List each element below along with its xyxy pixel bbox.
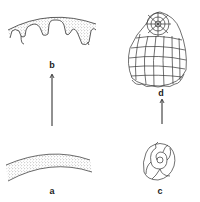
arrow-c-to-d: [160, 99, 164, 124]
panel-label-c: c: [157, 187, 162, 196]
figure: b a d c: [0, 0, 200, 202]
panel-c-drawing: [143, 142, 175, 180]
arrow-a-to-b: [50, 74, 54, 126]
panel-b-drawing: [8, 17, 96, 45]
panel-a-drawing: [6, 154, 92, 181]
reticulate-mesh: [129, 34, 186, 87]
figure-drawing: [0, 0, 200, 202]
spiral-top: [146, 12, 171, 36]
panel-label-b: b: [49, 61, 55, 70]
panel-d-drawing: [128, 12, 186, 87]
panel-label-d: d: [158, 89, 164, 98]
panel-label-a: a: [49, 187, 54, 196]
